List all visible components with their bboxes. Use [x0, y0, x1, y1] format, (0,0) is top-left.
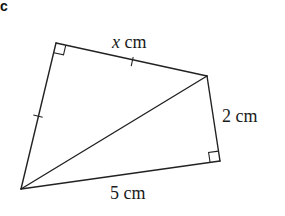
diagonal [21, 76, 207, 189]
tick-mark-top-side [131, 57, 133, 66]
top-side-variable: x [111, 32, 120, 52]
geometry-diagram: x cm 2 cm 5 cm [0, 0, 285, 216]
bottom-side-label: 5 cm [110, 183, 146, 203]
right-side-label: 2 cm [222, 106, 258, 126]
top-side-unit: cm [120, 32, 147, 52]
top-side-label: x cm [111, 32, 147, 52]
right-side [207, 76, 220, 161]
